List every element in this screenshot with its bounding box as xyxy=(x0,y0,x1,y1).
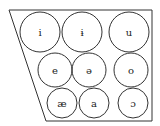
vowel-symbol: i xyxy=(38,27,41,38)
vowel-chart: iɨueəoæaɔ xyxy=(0,0,160,126)
vowel-symbol: o xyxy=(128,65,134,76)
vowel-node: æ xyxy=(47,88,77,118)
vowel-symbol: ɨ xyxy=(80,27,83,38)
vowel-symbol: e xyxy=(52,65,58,76)
vowel-node: i xyxy=(20,12,60,52)
vowel-symbol: a xyxy=(91,98,97,109)
vowel-node: ə xyxy=(72,53,106,87)
vowel-symbol: u xyxy=(126,27,133,38)
vowel-node: o xyxy=(114,53,148,87)
vowel-node: a xyxy=(79,88,109,118)
vowel-symbol: ɔ xyxy=(130,98,136,109)
vowel-node: ɨ xyxy=(62,12,102,52)
vowel-node: e xyxy=(38,53,72,87)
vowel-symbol: æ xyxy=(57,98,66,109)
vowel-node: ɔ xyxy=(118,88,148,118)
vowel-symbol: ə xyxy=(86,65,92,76)
vowel-node: u xyxy=(109,12,149,52)
